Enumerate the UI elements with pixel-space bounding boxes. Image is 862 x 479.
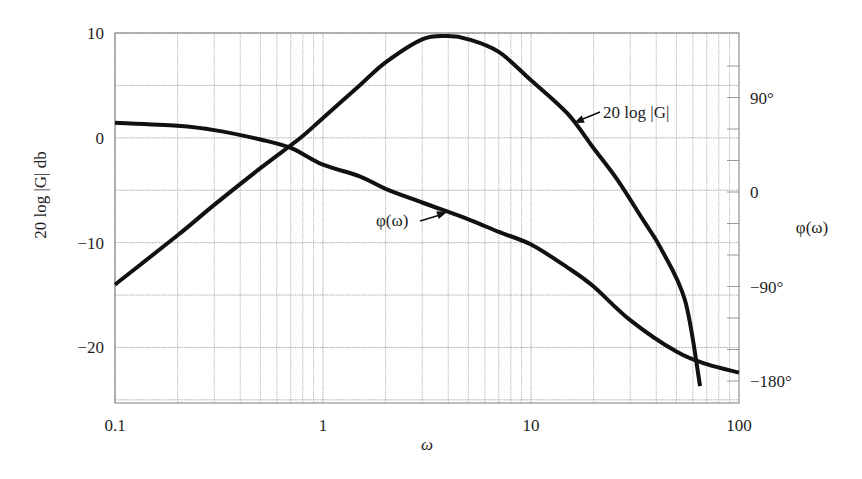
right-axis-label: φ(ω): [796, 218, 828, 237]
right-tick-label: 90°: [750, 89, 774, 108]
x-tick-label: 1: [319, 416, 328, 435]
phase-arrowhead-icon: [436, 211, 447, 219]
magnitude-label: 20 log |G|: [603, 103, 669, 122]
left-axis-label: 20 log |G| db: [31, 151, 50, 239]
right-tick-label: −90°: [750, 278, 783, 297]
phase-curve: [115, 123, 739, 373]
left-tick-label: −20: [77, 338, 104, 357]
phase-arrow: [420, 215, 440, 221]
curves: [115, 36, 739, 386]
magnitude-arrowhead-icon: [574, 115, 585, 123]
x-tick-label: 10: [523, 416, 540, 435]
left-tick-label: 0: [96, 129, 105, 148]
right-tick-label: 0: [750, 183, 759, 202]
right-tick-label: −180°: [750, 372, 792, 391]
x-tick-label: 0.1: [104, 416, 125, 435]
grid-lines: [115, 33, 739, 403]
x-axis-label: ω: [421, 435, 433, 454]
bode-plot: 0.1110100100−10−2090°0−90°−180° ω 20 log…: [0, 0, 862, 479]
x-tick-label: 100: [726, 416, 752, 435]
phase-annotation: φ(ω): [376, 211, 447, 230]
left-tick-label: −10: [77, 234, 104, 253]
magnitude-annotation: 20 log |G|: [574, 103, 669, 123]
left-tick-label: 10: [87, 24, 104, 43]
phase-label: φ(ω): [376, 211, 408, 230]
